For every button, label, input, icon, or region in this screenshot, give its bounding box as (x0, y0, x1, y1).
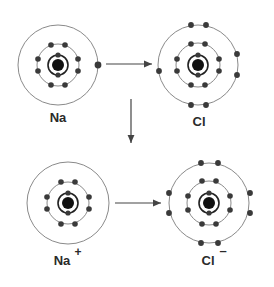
cl-label: Cl (193, 114, 206, 129)
chlorine-atom: Cl (156, 22, 240, 129)
na-ion-label: Na (54, 253, 71, 268)
nucleus (62, 197, 74, 209)
na-ion-symbol: Na (54, 253, 71, 268)
cl-ion-label: Cl (202, 253, 215, 268)
nucleus (192, 59, 204, 71)
ionic-bond-diagram: Na Cl (0, 0, 274, 287)
sodium-ion: Na + (27, 162, 109, 268)
valence-electron (95, 62, 102, 69)
cl-ion-charge: – (219, 243, 226, 258)
nucleus (203, 197, 215, 209)
sodium-atom: Na (18, 25, 101, 125)
chloride-ion: Cl – (166, 160, 253, 268)
nucleus (52, 59, 64, 71)
na-ion-charge: + (74, 245, 81, 259)
cl-ion-symbol: Cl (202, 253, 215, 268)
na-label: Na (50, 110, 67, 125)
